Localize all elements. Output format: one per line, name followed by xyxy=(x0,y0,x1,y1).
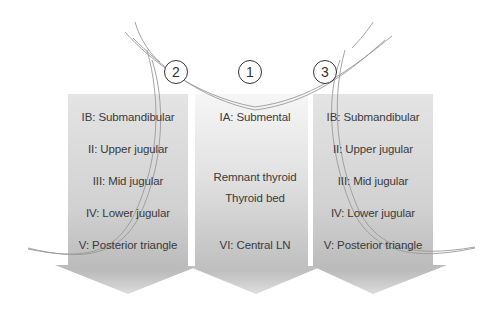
right-level-v-label: V: Posterior triangle xyxy=(324,239,422,251)
right-level-ii-label: II: Upper jugular xyxy=(333,143,413,155)
neck-compartment-diagram: 2 1 3 IB: Submandibular II: Upper jugula… xyxy=(0,0,495,309)
right-level-iii-label: III: Mid jugular xyxy=(338,175,409,187)
right-level-iv-label: IV: Lower jugular xyxy=(331,207,415,219)
central-level-ia-label: IA: Submental xyxy=(220,111,291,123)
right-compartment-arrow xyxy=(310,94,447,294)
marker-2-circle: 2 xyxy=(164,60,188,84)
marker-1-circle: 1 xyxy=(238,60,262,84)
left-level-iii-label: III: Mid jugular xyxy=(93,175,164,187)
diagram-graphics xyxy=(0,0,495,309)
left-level-v-label: V: Posterior triangle xyxy=(79,239,177,251)
thyroid-bed-label: Thyroid bed xyxy=(225,192,285,204)
left-level-iv-label: IV: Lower jugular xyxy=(86,207,170,219)
right-level-ib-label: IB: Submandibular xyxy=(327,111,420,123)
remnant-thyroid-label: Remnant thyroid xyxy=(214,171,297,183)
marker-3-circle: 3 xyxy=(313,60,337,84)
left-level-ib-label: IB: Submandibular xyxy=(82,111,175,123)
central-level-vi-label: VI: Central LN xyxy=(220,239,291,251)
left-compartment-arrow xyxy=(55,94,201,294)
left-level-ii-label: II: Upper jugular xyxy=(88,143,168,155)
